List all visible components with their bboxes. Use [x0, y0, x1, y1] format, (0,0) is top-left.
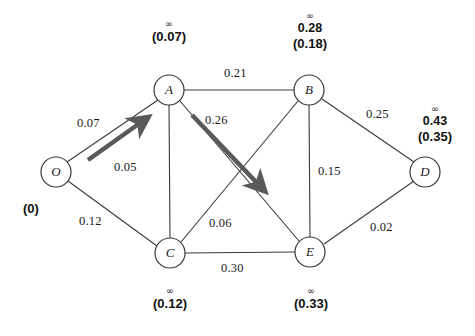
node-label-C: C: [155, 238, 185, 268]
distance-label-C: ∞ (0.12): [131, 285, 209, 312]
node-label-E: E: [295, 237, 325, 267]
distance-temporary-B: 0.28: [271, 21, 349, 36]
edge-weight-O-A: 0.07: [77, 116, 100, 131]
distance-label-A: ∞ (0.07): [130, 18, 208, 45]
node-label-A: A: [154, 75, 184, 105]
distance-infinity-D: ∞: [396, 103, 474, 114]
distance-temporary-D: 0.43: [396, 114, 474, 129]
edge-weight-A-B: 0.21: [224, 66, 247, 81]
edge-O-A: [67, 100, 158, 162]
distance-label-E: ∞ (0.33): [272, 285, 350, 312]
distance-infinity-E: ∞: [272, 285, 350, 296]
distance-permanent-B: (0.18): [271, 36, 349, 52]
network-diagram: O A B C D E 0.07 0.12 0.21 0.05 0.26 0.0…: [0, 0, 475, 336]
distance-label-B: ∞ 0.28 (0.18): [271, 10, 349, 52]
edge-weight-C-E: 0.30: [221, 261, 244, 276]
node-label-O: O: [41, 157, 71, 187]
edge-D-E: [324, 181, 414, 244]
edge-A-C: [169, 105, 170, 238]
distance-permanent-D: (0.35): [396, 129, 474, 145]
distance-infinity-B: ∞: [271, 10, 349, 21]
edge-weight-B-D: 0.25: [366, 107, 389, 122]
edge-weight-A-C: 0.05: [114, 160, 137, 175]
edge-C-E: [185, 252, 295, 253]
graph-canvas: [0, 0, 475, 336]
node-label-B: B: [294, 75, 324, 105]
edge-B-E: [309, 105, 310, 237]
distance-infinity-A: ∞: [130, 18, 208, 29]
distance-permanent-E: (0.33): [272, 296, 350, 312]
node-label-D: D: [410, 157, 440, 187]
edge-weight-B-C: 0.06: [209, 216, 232, 231]
edge-weight-A-E: 0.26: [205, 113, 228, 128]
edge-weight-D-E: 0.02: [370, 220, 393, 235]
distance-infinity-C: ∞: [131, 285, 209, 296]
edge-weight-B-E: 0.15: [318, 164, 341, 179]
distance-label-O: (0): [23, 201, 39, 216]
distance-label-D: ∞ 0.43 (0.35): [396, 103, 474, 145]
edge-weight-O-C: 0.12: [79, 214, 102, 229]
distance-permanent-C: (0.12): [131, 296, 209, 312]
distance-permanent-A: (0.07): [130, 29, 208, 45]
